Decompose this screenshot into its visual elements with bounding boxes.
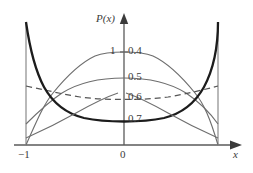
curve-label-0-5: 0.5 [128, 70, 142, 82]
x-tick-label-zero: 0 [120, 148, 126, 160]
x-axis-label: x [233, 148, 238, 160]
curve-0-7 [26, 22, 218, 122]
curve-label-0-6: 0.6 [128, 90, 142, 102]
figure-container: P(x) x −1 0 1 0.4 0.5 0.6 0.7 [0, 0, 253, 173]
y-tick-label-one: 1 [110, 44, 116, 56]
plot-canvas [0, 0, 253, 173]
curve-label-0-7: 0.7 [128, 112, 142, 124]
curve-label-0-4: 0.4 [128, 44, 142, 56]
y-axis [120, 13, 128, 145]
x-axis [14, 141, 242, 150]
y-axis-label: P(x) [96, 12, 115, 24]
x-tick-label-minus-one: −1 [18, 148, 30, 160]
